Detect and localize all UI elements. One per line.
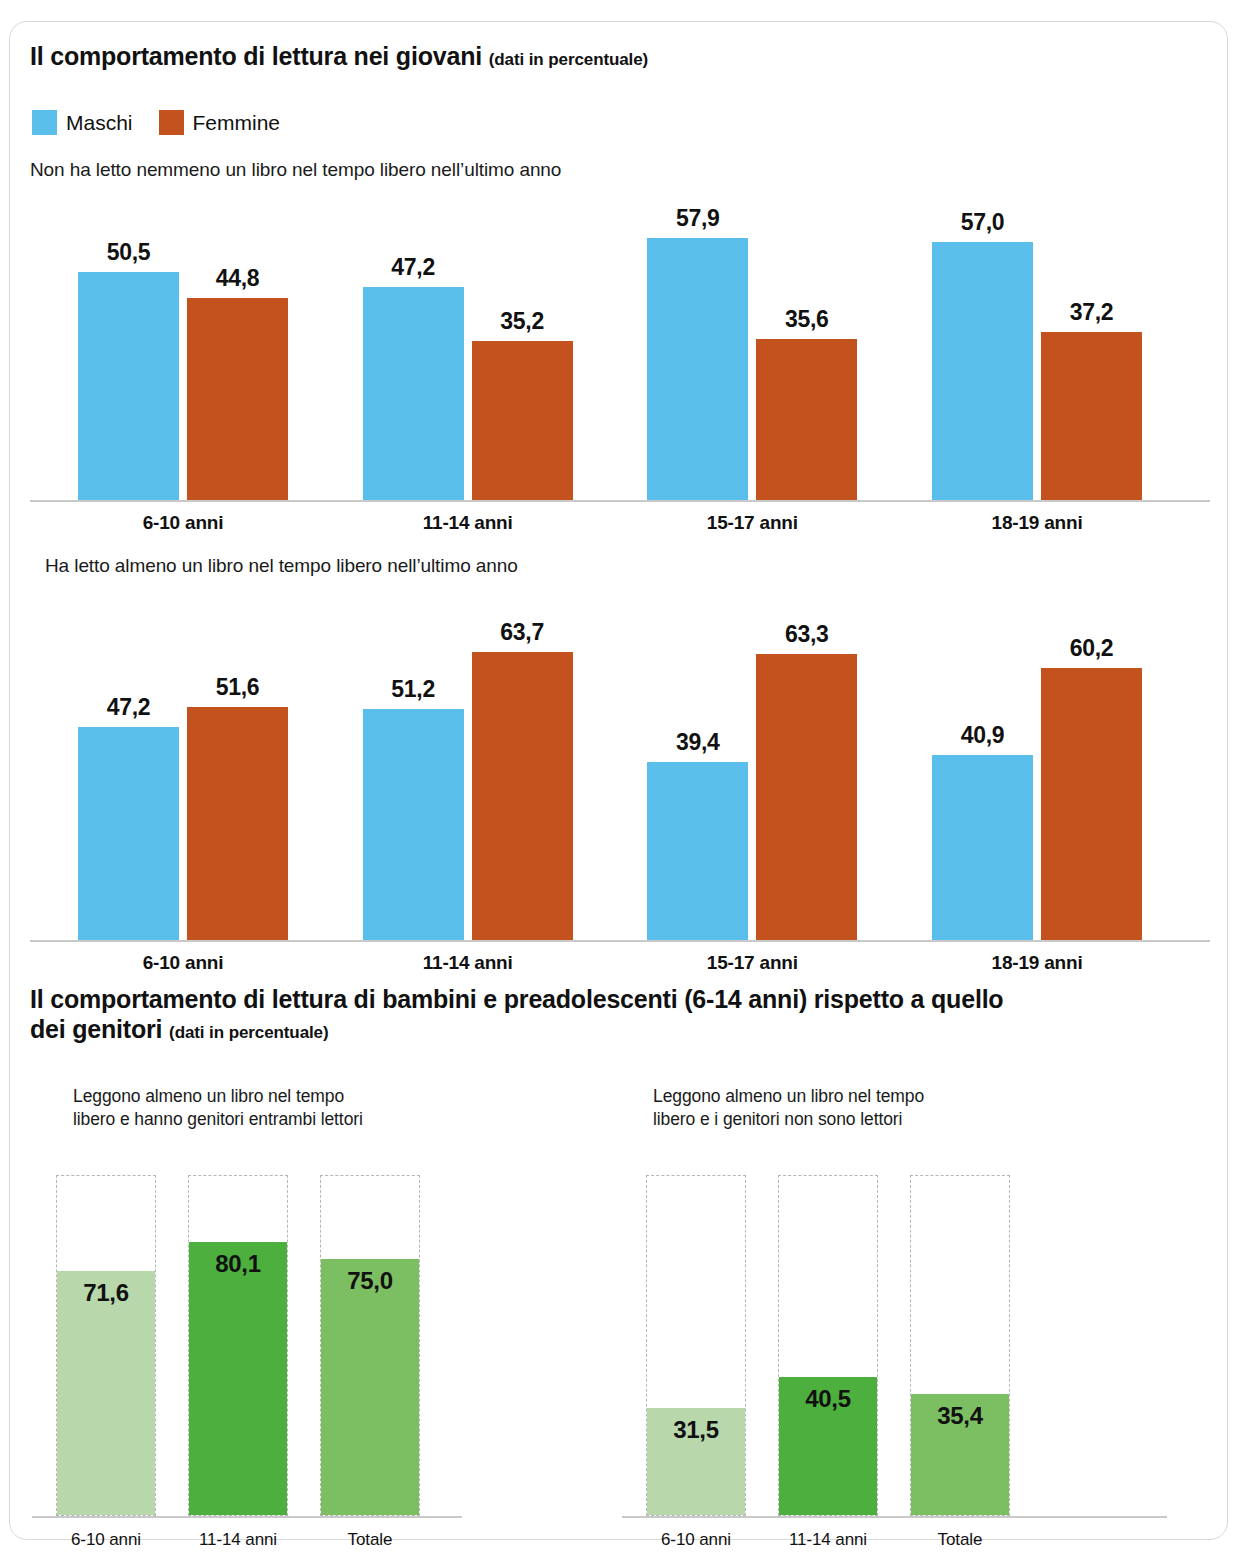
bar-fill [78, 727, 179, 940]
bar-target-outline-11-14-anni: 80,1 [188, 1175, 288, 1516]
bar-value-label: 51,6 [165, 674, 310, 701]
panel-left-caption-line2: libero e hanno genitori entrambi lettori [73, 1109, 363, 1129]
legend-label-femmine: Femmine [193, 111, 281, 135]
legend-swatch-femmine [159, 110, 184, 135]
bar-fill-Totale: 75,0 [321, 1259, 419, 1515]
bar-fill [78, 272, 179, 500]
bar-value-label: 60,2 [1019, 635, 1164, 662]
chart1-caption: Non ha letto nemmeno un libro nel tempo … [30, 159, 561, 181]
bar-value-label: 71,6 [57, 1279, 155, 1307]
panel-left-caption-line1: Leggono almeno un libro nel tempo [73, 1086, 344, 1106]
bar-fill [1041, 332, 1142, 500]
bar-maschi-11-14-anni: 51,2 [363, 709, 464, 940]
bar-fill [1041, 668, 1142, 940]
bar-maschi-11-14-anni: 47,2 [363, 287, 464, 500]
section2-title-line1: Il comportamento di lettura di bambini e… [30, 985, 1003, 1013]
bar-value-label: 47,2 [341, 254, 486, 281]
panel-right-caption-line1: Leggono almeno un libro nel tempo [653, 1086, 924, 1106]
section1-title: Il comportamento di lettura nei giovani … [30, 42, 648, 72]
bar-value-label: 44,8 [165, 265, 310, 292]
bar-value-label: 75,0 [321, 1267, 419, 1295]
bar-maschi-18-19-anni: 40,9 [932, 755, 1033, 940]
category-label-Totale: Totale [285, 1530, 455, 1550]
section1-title-sub: (dati in percentuale) [489, 50, 648, 69]
bar-value-label: 63,7 [450, 619, 595, 646]
chart-genitori-non-lettori: 31,56-10 anni40,511-14 anni35,4Totale [622, 1153, 1167, 1555]
category-label-11-14-anni: 11-14 anni [323, 952, 613, 974]
bar-fill-6-10-anni: 31,5 [647, 1408, 745, 1515]
category-label-15-17-anni: 15-17 anni [607, 512, 897, 534]
bar-fill [187, 298, 288, 500]
bar-value-label: 80,1 [189, 1250, 287, 1278]
bar-fill-11-14-anni: 40,5 [779, 1377, 877, 1515]
bar-fill [363, 709, 464, 940]
bar-fill [647, 238, 748, 500]
bar-maschi-18-19-anni: 57,0 [932, 242, 1033, 500]
chart-lettori: 47,251,66-10 anni51,263,711-14 anni39,46… [30, 602, 1210, 942]
section2-title-sub: (dati in percentuale) [169, 1023, 328, 1042]
bar-target-outline-11-14-anni: 40,5 [778, 1175, 878, 1516]
x-axis-line [30, 940, 1210, 942]
legend-label-maschi: Maschi [66, 111, 133, 135]
bar-femmine-6-10-anni: 44,8 [187, 298, 288, 500]
infographic-card: Il comportamento di lettura nei giovani … [9, 21, 1228, 1540]
bar-value-label: 51,2 [341, 676, 486, 703]
bar-fill [647, 762, 748, 940]
bar-femmine-15-17-anni: 63,3 [756, 654, 857, 940]
bar-value-label: 35,6 [734, 306, 879, 333]
bar-fill [187, 707, 288, 940]
category-label-6-10-anni: 6-10 anni [38, 512, 328, 534]
section2-title-line2: dei genitori [30, 1015, 162, 1043]
bar-femmine-18-19-anni: 60,2 [1041, 668, 1142, 940]
category-label-11-14-anni: 11-14 anni [323, 512, 613, 534]
bar-fill-11-14-anni: 80,1 [189, 1242, 287, 1515]
bar-fill-6-10-anni: 71,6 [57, 1271, 155, 1515]
bar-target-outline-6-10-anni: 31,5 [646, 1175, 746, 1516]
bar-fill [932, 242, 1033, 500]
bar-femmine-15-17-anni: 35,6 [756, 339, 857, 500]
category-label-6-10-anni: 6-10 anni [38, 952, 328, 974]
chart2-caption: Ha letto almeno un libro nel tempo liber… [45, 555, 518, 577]
x-axis-line [32, 1516, 462, 1518]
bar-value-label: 35,2 [450, 308, 595, 335]
bar-maschi-15-17-anni: 57,9 [647, 238, 748, 500]
bar-value-label: 57,9 [625, 205, 770, 232]
category-label-18-19-anni: 18-19 anni [892, 512, 1182, 534]
category-label-18-19-anni: 18-19 anni [892, 952, 1182, 974]
bar-fill [932, 755, 1033, 940]
bar-value-label: 35,4 [911, 1402, 1009, 1430]
bar-maschi-6-10-anni: 50,5 [78, 272, 179, 500]
panel-right-caption-line2: libero e i genitori non sono lettori [653, 1109, 902, 1129]
bar-femmine-11-14-anni: 35,2 [472, 341, 573, 500]
panel-left-caption: Leggono almeno un libro nel tempo libero… [73, 1085, 493, 1132]
legend-swatch-maschi [32, 110, 57, 135]
bar-value-label: 39,4 [625, 729, 770, 756]
bar-fill [756, 339, 857, 500]
section1-title-main: Il comportamento di lettura nei giovani [30, 42, 482, 70]
bar-fill [756, 654, 857, 940]
bar-femmine-11-14-anni: 63,7 [472, 652, 573, 940]
bar-value-label: 50,5 [56, 239, 201, 266]
legend-item-femmine: Femmine [159, 110, 281, 135]
bar-femmine-18-19-anni: 37,2 [1041, 332, 1142, 500]
panel-right-caption: Leggono almeno un libro nel tempo libero… [653, 1085, 1073, 1132]
bar-fill [363, 287, 464, 500]
bar-value-label: 63,3 [734, 621, 879, 648]
bar-fill [472, 652, 573, 940]
category-label-15-17-anni: 15-17 anni [607, 952, 897, 974]
chart-non-lettori: 50,544,86-10 anni47,235,211-14 anni57,93… [30, 202, 1210, 532]
bar-value-label: 57,0 [910, 209, 1055, 236]
bar-fill [472, 341, 573, 500]
bar-target-outline-6-10-anni: 71,6 [56, 1175, 156, 1516]
bar-femmine-6-10-anni: 51,6 [187, 707, 288, 940]
bar-target-outline-Totale: 35,4 [910, 1175, 1010, 1516]
bar-fill-Totale: 35,4 [911, 1394, 1009, 1515]
x-axis-line [622, 1516, 1167, 1518]
chart-genitori-lettori: 71,66-10 anni80,111-14 anni75,0Totale [32, 1153, 462, 1555]
x-axis-line [30, 500, 1210, 502]
category-label-Totale: Totale [875, 1530, 1045, 1550]
section2-title: Il comportamento di lettura di bambini e… [30, 985, 1170, 1044]
bar-value-label: 40,5 [779, 1385, 877, 1413]
bar-value-label: 37,2 [1019, 299, 1164, 326]
legend: Maschi Femmine [32, 110, 280, 135]
